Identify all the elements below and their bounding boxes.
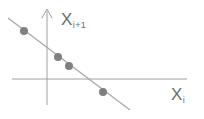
data-point — [20, 27, 28, 35]
data-point — [65, 62, 73, 70]
scatter-plot-figure: Xi+1 Xi — [0, 0, 204, 119]
data-point — [54, 53, 62, 61]
x-axis-label-subscript: i — [183, 95, 185, 105]
y-axis-label: Xi+1 — [61, 11, 86, 30]
y-axis-label-base: X — [61, 10, 73, 29]
x-axis-label: Xi — [171, 86, 185, 105]
data-point — [99, 88, 107, 96]
y-axis-label-subscript: i+1 — [73, 20, 86, 30]
x-axis-label-base: X — [171, 85, 183, 104]
